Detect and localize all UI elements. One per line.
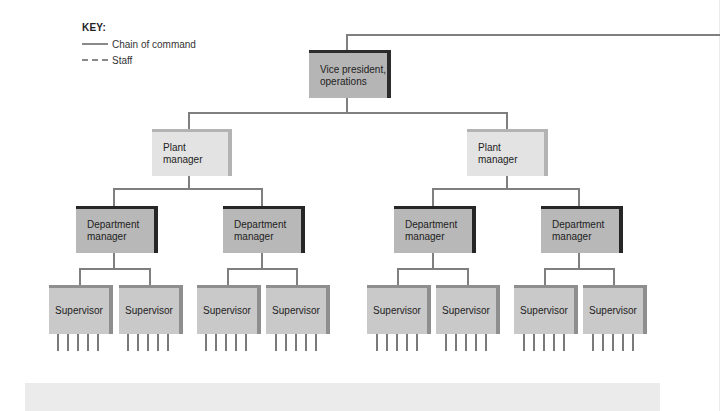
reports-lines bbox=[376, 334, 426, 351]
solid-line-icon bbox=[82, 43, 108, 45]
supervisor-label: Supervisor bbox=[272, 305, 320, 317]
supervisor-label: Supervisor bbox=[373, 305, 421, 317]
legend-item-chain-of-command: Chain of command bbox=[82, 39, 196, 49]
connector bbox=[261, 252, 263, 269]
department-manager-box: Department manager bbox=[76, 206, 158, 253]
vp-operations-box: Vice president, operations bbox=[309, 50, 391, 98]
vp-label: Vice president, operations bbox=[309, 64, 386, 88]
supervisor-box: Supervisor bbox=[197, 285, 261, 334]
supervisor-box: Supervisor bbox=[49, 285, 113, 334]
connector bbox=[578, 188, 580, 208]
connector bbox=[113, 188, 263, 190]
connector bbox=[506, 175, 508, 189]
connector bbox=[113, 188, 115, 208]
connector bbox=[261, 188, 263, 208]
department-manager-box: Department manager bbox=[394, 206, 476, 253]
connector bbox=[432, 252, 434, 269]
dashed-line-icon bbox=[82, 59, 108, 61]
department-manager-box: Department manager bbox=[541, 206, 623, 253]
connector bbox=[188, 112, 508, 114]
page-edge bbox=[719, 0, 720, 411]
plant-manager-label: Plant manager bbox=[467, 142, 517, 166]
bottom-band bbox=[25, 383, 660, 411]
legend-title: KEY: bbox=[82, 22, 196, 33]
legend-item-staff: Staff bbox=[82, 55, 196, 65]
supervisor-box: Supervisor bbox=[514, 285, 578, 334]
department-manager-label: Department manager bbox=[223, 219, 286, 243]
department-manager-label: Department manager bbox=[541, 219, 604, 243]
connector bbox=[544, 268, 615, 270]
connector bbox=[79, 268, 151, 270]
connector bbox=[578, 252, 580, 269]
connector bbox=[397, 268, 469, 270]
legend-label: Chain of command bbox=[112, 39, 196, 50]
connector bbox=[432, 188, 434, 208]
reports-lines bbox=[57, 334, 107, 351]
supervisor-label: Supervisor bbox=[55, 305, 103, 317]
supervisor-box: Supervisor bbox=[119, 285, 183, 334]
reports-lines bbox=[275, 334, 325, 351]
supervisor-label: Supervisor bbox=[520, 305, 568, 317]
supervisor-label: Supervisor bbox=[203, 305, 251, 317]
reports-lines bbox=[127, 334, 177, 351]
connector bbox=[432, 188, 580, 190]
reports-lines bbox=[523, 334, 573, 351]
supervisor-label: Supervisor bbox=[589, 305, 637, 317]
plant-manager-box: Plant manager bbox=[467, 129, 548, 176]
supervisor-box: Supervisor bbox=[367, 285, 431, 334]
connector bbox=[188, 175, 190, 189]
department-manager-box: Department manager bbox=[223, 206, 305, 253]
supervisor-box: Supervisor bbox=[583, 285, 647, 334]
plant-manager-box: Plant manager bbox=[152, 129, 232, 176]
reports-lines bbox=[205, 334, 255, 351]
connector bbox=[113, 252, 115, 269]
department-manager-label: Department manager bbox=[76, 219, 139, 243]
connector-to-offpage bbox=[346, 34, 720, 36]
department-manager-label: Department manager bbox=[394, 219, 457, 243]
legend-label: Staff bbox=[112, 55, 132, 66]
supervisor-box: Supervisor bbox=[266, 285, 330, 334]
supervisor-label: Supervisor bbox=[442, 305, 490, 317]
connector bbox=[227, 268, 298, 270]
reports-lines bbox=[592, 334, 642, 351]
plant-manager-label: Plant manager bbox=[152, 142, 202, 166]
supervisor-label: Supervisor bbox=[125, 305, 173, 317]
reports-lines bbox=[445, 334, 495, 351]
supervisor-box: Supervisor bbox=[436, 285, 500, 334]
legend: KEY: Chain of command Staff bbox=[82, 22, 196, 65]
